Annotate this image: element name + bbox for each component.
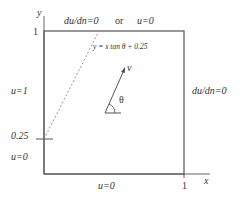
left-upper-condition: u=1 bbox=[11, 86, 28, 96]
top-condition-or: or bbox=[115, 16, 123, 26]
velocity-vector bbox=[105, 70, 124, 113]
unit-square-domain bbox=[44, 31, 184, 174]
right-condition: du/dn=0 bbox=[192, 86, 227, 96]
angle-arc bbox=[109, 104, 115, 113]
x-axis-label: x bbox=[204, 176, 208, 186]
y-axis-label: y bbox=[37, 8, 41, 18]
characteristic-line bbox=[44, 31, 99, 139]
characteristic-equation: y = x tan θ + 0.25 bbox=[93, 43, 147, 51]
y-mark-0.25: 0.25 bbox=[11, 131, 29, 141]
left-lower-condition: u=0 bbox=[11, 152, 28, 162]
bottom-condition: u=0 bbox=[98, 181, 115, 191]
velocity-label: v bbox=[127, 63, 131, 73]
x-tick-1: 1 bbox=[182, 181, 187, 191]
y-tick-1: 1 bbox=[33, 27, 38, 37]
top-condition-neumann: du/dn=0 bbox=[64, 16, 99, 26]
arrowhead-icon bbox=[121, 67, 125, 73]
top-condition-dirichlet: u=0 bbox=[137, 16, 154, 26]
angle-theta-label: θ bbox=[119, 95, 124, 105]
